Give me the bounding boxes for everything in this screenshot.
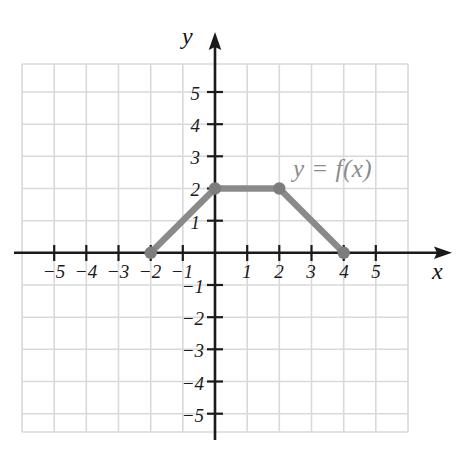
y-axis <box>209 32 222 440</box>
point-marker <box>273 182 285 194</box>
y-tick-label--5: −5 <box>168 406 204 425</box>
graph-figure: −5 −4 −3 −2 −1 1 2 3 4 5 5 4 3 2 1 −1 −2… <box>0 0 473 468</box>
coordinate-plane-svg <box>0 0 473 468</box>
x-tick-label-1: 1 <box>232 262 262 281</box>
x-tick-label-3: 3 <box>296 262 326 281</box>
x-axis <box>14 247 452 260</box>
y-tick-label-3: 3 <box>174 148 200 167</box>
y-tick-label--4: −4 <box>168 374 204 393</box>
y-tick-label-1: 1 <box>174 213 200 232</box>
y-tick-label--1: −1 <box>168 277 204 296</box>
y-tick-label-5: 5 <box>174 84 200 103</box>
x-tick-label-2: 2 <box>264 262 294 281</box>
point-marker <box>145 247 157 259</box>
point-marker <box>209 182 221 194</box>
point-marker <box>338 247 350 259</box>
y-tick-label-2: 2 <box>174 180 200 199</box>
y-tick-label--3: −3 <box>168 341 204 360</box>
y-tick-label--2: −2 <box>168 309 204 328</box>
x-axis-name: x <box>432 259 443 283</box>
curve-label: y = f(x) <box>293 156 372 181</box>
x-tick-label-4: 4 <box>329 262 359 281</box>
y-axis-name: y <box>182 24 193 48</box>
x-tick-label-5: 5 <box>361 262 391 281</box>
y-tick-label-4: 4 <box>174 116 200 135</box>
